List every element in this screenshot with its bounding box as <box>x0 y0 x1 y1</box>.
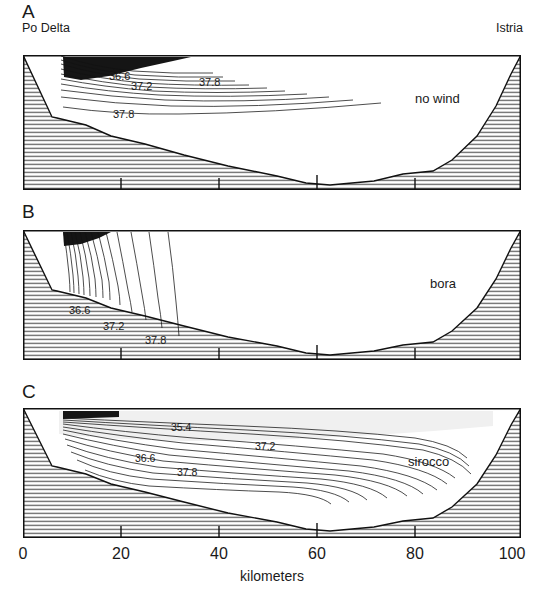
x-tick-60: 60 <box>308 545 326 562</box>
salinity-cross-section-figure: A Po Delta Istria <box>0 0 541 599</box>
contour-label-366-a: 36.6 <box>109 70 130 82</box>
x-tick-100: 100 <box>499 545 526 562</box>
contour-label-366-b: 36.6 <box>69 304 90 316</box>
panel-bora: B <box>0 200 541 380</box>
contour-label-366-c: 36.6 <box>135 452 156 464</box>
contour-label-378b-a: 37.8 <box>113 108 134 120</box>
panel-letter-a: A <box>22 2 35 21</box>
x-tick-20: 20 <box>112 545 130 562</box>
panel-letter-c: C <box>22 382 36 401</box>
case-label-sirocco: sirocco <box>408 455 449 469</box>
contour-label-372-b: 37.2 <box>103 320 124 332</box>
x-axis: 0 20 40 60 80 100 kilometers <box>23 545 521 599</box>
panel-no-wind: A Po Delta Istria <box>0 0 541 200</box>
contour-label-378-b: 37.8 <box>145 334 166 346</box>
po-delta-label: Po Delta <box>22 22 70 35</box>
x-axis-title: kilometers <box>240 569 304 584</box>
contour-label-378-c: 37.8 <box>177 466 198 478</box>
case-label-bora: bora <box>430 277 456 291</box>
x-tick-40: 40 <box>210 545 228 562</box>
contour-label-378-a: 37.8 <box>199 76 220 88</box>
plot-area-bora: 36.6 37.2 37.8 <box>23 230 521 360</box>
case-label-no-wind: no wind <box>415 92 460 106</box>
x-tick-0: 0 <box>19 545 28 562</box>
x-tick-80: 80 <box>406 545 424 562</box>
contour-label-354-c: 35.4 <box>171 421 192 433</box>
panel-sirocco: C <box>0 380 541 545</box>
contour-label-372-c: 37.2 <box>255 440 276 452</box>
plot-area-sirocco: 35.4 37.2 36.6 37.8 <box>23 408 521 538</box>
panel-letter-b: B <box>22 202 35 221</box>
plot-area-no-wind: 36.6 37.2 37.8 37.8 <box>23 55 521 190</box>
istria-label: Istria <box>496 22 523 35</box>
contour-label-372-a: 37.2 <box>131 80 152 92</box>
